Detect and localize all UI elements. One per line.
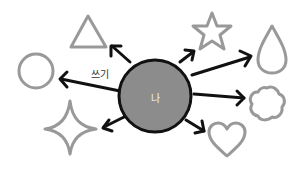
sparkle-shape (45, 101, 96, 154)
arrow-to-star (180, 50, 194, 62)
arrow-to-circle (60, 72, 120, 91)
arrow-to-sparkle (103, 117, 124, 131)
edge-label: 쓰기 (91, 66, 109, 81)
arrow-to-drop (192, 51, 251, 75)
circle-shape (19, 54, 53, 88)
mind-map-canvas (0, 0, 301, 170)
heart-shape (209, 123, 245, 156)
triangle-shape (71, 16, 106, 47)
arrow-to-flower (194, 91, 244, 105)
arrow-to-heart (186, 120, 204, 133)
center-node-label: 나 (151, 90, 160, 105)
flower-shape (250, 87, 284, 120)
star-shape (193, 13, 231, 49)
drop-shape (258, 26, 286, 73)
arrow-to-triangle (111, 46, 130, 62)
